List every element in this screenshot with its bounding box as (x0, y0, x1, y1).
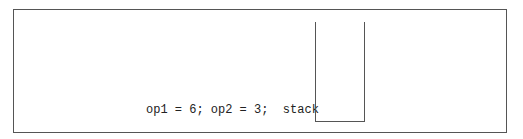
operand-statement: op1 = 6; op2 = 3; (146, 103, 268, 117)
stack-container (315, 22, 365, 122)
stack-label: stack (283, 103, 319, 117)
code-line: op1 = 6; op2 = 3; stack (146, 102, 319, 118)
